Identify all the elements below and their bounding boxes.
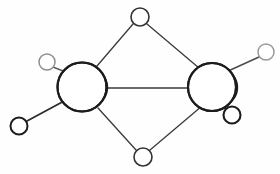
upper-left-terminal-atom (39, 54, 55, 70)
lower-left-terminal-atom (11, 118, 28, 135)
molecular-structure-diagram (0, 0, 280, 174)
bottom-bridging-atom (134, 148, 152, 166)
top-bridging-atom (131, 8, 149, 26)
lower-right-terminal-atom (224, 107, 241, 124)
figure-canvas (0, 0, 280, 174)
upper-right-terminal-atom (258, 44, 274, 60)
